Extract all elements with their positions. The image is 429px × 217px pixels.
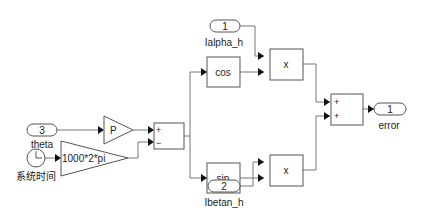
outport-number: 1 <box>387 104 393 115</box>
gain-label: 1000*2*pi <box>62 153 105 164</box>
outport-label: error <box>378 120 400 131</box>
gain-p[interactable]: P <box>104 116 133 144</box>
inport-label: theta <box>31 139 54 150</box>
simulink-diagram: 3 theta 系统时间 P 1000*2*pi + − 1 Ialpha_h … <box>0 0 429 217</box>
gain-label: P <box>110 125 117 136</box>
sum-sign: + <box>334 97 339 107</box>
cos-block[interactable]: cos <box>207 57 240 87</box>
product-block-1[interactable]: x <box>270 49 303 80</box>
inport-theta[interactable]: 3 theta <box>27 124 57 150</box>
sum-sign: − <box>156 138 161 148</box>
inport-number: 2 <box>221 181 227 192</box>
inport-label: Ibetan_h <box>205 197 244 208</box>
clock-block[interactable]: 系统时间 <box>16 149 56 182</box>
sum-sign: + <box>156 125 161 135</box>
product-label: x <box>284 59 289 70</box>
inport-label: Ialpha_h <box>205 37 243 48</box>
gain-omega[interactable]: 1000*2*pi <box>61 141 128 176</box>
outport-error[interactable]: 1 error <box>374 103 406 131</box>
sum-block-2[interactable]: + + <box>331 94 363 125</box>
inport-number: 3 <box>39 125 45 136</box>
inport-ibetan[interactable]: 2 Ibetan_h <box>205 180 244 208</box>
inport-number: 1 <box>222 21 228 32</box>
inport-ialpha[interactable]: 1 Ialpha_h <box>205 20 243 48</box>
product-block-2[interactable]: x <box>270 155 303 186</box>
trig-label: cos <box>215 67 231 78</box>
product-label: x <box>284 165 289 176</box>
sum-block-1[interactable]: + − <box>154 123 184 149</box>
sum-sign: + <box>334 111 339 121</box>
clock-label: 系统时间 <box>16 170 56 182</box>
